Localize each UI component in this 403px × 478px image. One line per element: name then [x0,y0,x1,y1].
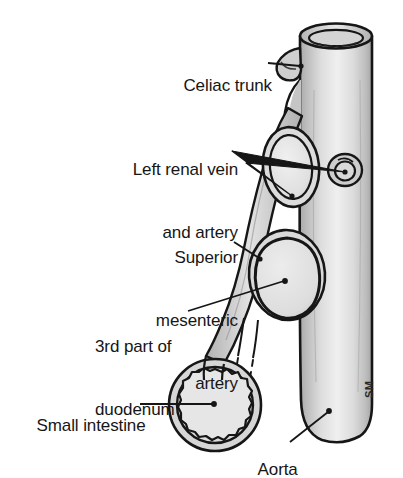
label-celiac-trunk: Celiac trunk [162,54,272,117]
leader-dot-aorta [326,408,332,414]
label-superior-mesenteric-line-1: Superior [118,247,238,268]
label-celiac-trunk-text: Celiac trunk [183,76,272,95]
artist-signature: SM [363,381,375,399]
label-left-renal-line-1: Left renal vein [110,159,238,180]
leader-dot-celiac-trunk [298,63,303,68]
aorta-structure [300,24,372,443]
label-aorta-text: Aorta [258,460,298,478]
mesenteric-branch-2 [253,320,258,358]
leader-dot-superior-mesenteric-artery [257,256,262,261]
label-small-intestine: Small intestine [18,394,158,457]
label-duodenum-line-1: 3rd part of [95,336,225,357]
duodenum-lumen [255,238,319,318]
leader-dot-duodenum [282,278,288,284]
leader-dot-left-renal-artery [342,169,347,174]
anatomy-figure: Celiac trunk Left renal vein and artery … [0,0,403,478]
label-aorta: Aorta [240,438,310,478]
leader-dot-left-renal-vein [289,193,294,198]
label-small-intestine-text: Small intestine [37,416,146,435]
